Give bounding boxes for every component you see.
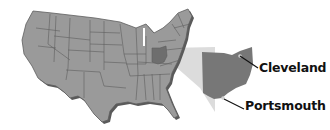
ohio-inset (202, 47, 253, 99)
cleveland-label: Cleveland (259, 60, 326, 75)
portsmouth-leader-line (224, 99, 244, 109)
us-landmass (22, 9, 192, 122)
lake-michigan (143, 28, 145, 46)
portsmouth-label: Portsmouth (245, 98, 326, 113)
